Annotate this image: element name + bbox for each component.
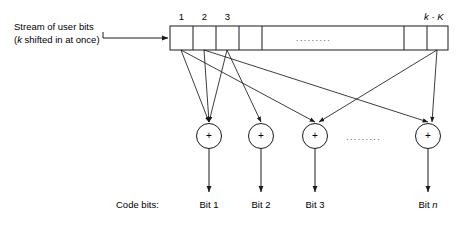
register-interior-ellipsis: ......... [296, 32, 331, 44]
bit-n-prefix: Bit [418, 199, 432, 210]
tap-connection-lines [181, 50, 437, 122]
adder-row-ellipsis: ......... [346, 131, 381, 143]
adder-output-lines [209, 149, 428, 193]
register-cell-index-1: 1 [176, 11, 187, 23]
register-cell-index-last: k · K [424, 11, 444, 23]
shifted-in-text: shifted in at once) [22, 34, 100, 45]
adder-plus-2: + [255, 130, 267, 142]
input-stream-line2: (k shifted in at once) [14, 33, 100, 46]
code-bits-label: Code bits: [116, 199, 159, 211]
output-label-bit-1: Bit 1 [193, 199, 225, 211]
input-feed-arrow [103, 32, 168, 38]
encoder-diagram: Stream of user bits (k shifted in at onc… [0, 0, 465, 225]
register-cell-index-3: 3 [222, 11, 233, 23]
output-label-bit-n: Bit n [412, 199, 444, 211]
output-label-bit-2: Bit 2 [245, 199, 277, 211]
dot-operator: · [429, 11, 437, 22]
n-symbol: n [432, 199, 437, 210]
adder-plus-3: + [309, 130, 321, 142]
input-stream-label: Stream of user bits (k shifted in at onc… [14, 20, 100, 46]
adder-plus-4: + [422, 130, 434, 142]
k-upper-symbol: K [437, 11, 443, 22]
register-cell-index-2: 2 [199, 11, 210, 23]
output-label-bit-3: Bit 3 [299, 199, 331, 211]
input-stream-line1: Stream of user bits [14, 20, 100, 33]
adder-plus-1: + [203, 130, 215, 142]
